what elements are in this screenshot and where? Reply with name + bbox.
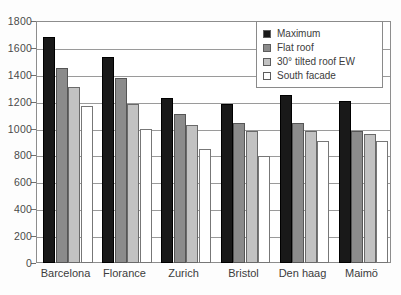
bar-group xyxy=(43,21,93,263)
bar[interactable] xyxy=(351,131,363,263)
bar[interactable] xyxy=(199,149,211,263)
legend-label: Maximum xyxy=(277,28,320,39)
chart-legend: MaximumFlat roof30° tilted roof EWSouth … xyxy=(256,21,383,88)
y-tick-label: 0 xyxy=(0,258,32,268)
legend-swatch-icon xyxy=(263,44,271,52)
y-tick-label: 200 xyxy=(0,231,32,241)
bar[interactable] xyxy=(43,37,55,263)
bar[interactable] xyxy=(140,129,152,263)
legend-label: Flat roof xyxy=(277,42,314,53)
bar[interactable] xyxy=(246,131,258,263)
y-tick-label: 600 xyxy=(0,177,32,187)
legend-item[interactable]: South facade xyxy=(263,69,377,82)
bar[interactable] xyxy=(174,114,186,263)
legend-swatch-icon xyxy=(263,72,271,80)
x-tick-label-maimö: Maimö xyxy=(332,267,391,280)
x-tick-label-barcelona: Barcelona xyxy=(36,267,95,280)
legend-label: South facade xyxy=(277,70,336,81)
bar[interactable] xyxy=(233,123,245,263)
y-tick-label: 1600 xyxy=(0,43,32,53)
bar[interactable] xyxy=(258,156,270,263)
bar[interactable] xyxy=(364,134,376,263)
y-tick-label: 1200 xyxy=(0,97,32,107)
x-tick-label-florance: Florance xyxy=(95,267,154,280)
legend-label: 30° tilted roof EW xyxy=(277,56,355,67)
bar[interactable] xyxy=(339,101,351,263)
bar[interactable] xyxy=(127,104,139,263)
y-tick-label: 800 xyxy=(0,150,32,160)
x-tick-label-zurich: Zurich xyxy=(154,267,213,280)
bar[interactable] xyxy=(317,141,329,263)
bar[interactable] xyxy=(102,57,114,263)
legend-item[interactable]: 30° tilted roof EW xyxy=(263,55,377,68)
legend-item[interactable]: Flat roof xyxy=(263,41,377,54)
bar[interactable] xyxy=(292,123,304,263)
bar[interactable] xyxy=(161,98,173,263)
x-tick-label-den-haag: Den haag xyxy=(273,267,332,280)
bar[interactable] xyxy=(280,95,292,263)
bar-group xyxy=(102,21,152,263)
bar-group xyxy=(161,21,211,263)
x-tick-label-bristol: Bristol xyxy=(214,267,273,280)
y-tick-label: 1000 xyxy=(0,124,32,134)
bar-chart: 020040060080010001200140016001800 Barcel… xyxy=(0,0,401,295)
legend-item[interactable]: Maximum xyxy=(263,27,377,40)
legend-swatch-icon xyxy=(263,30,271,38)
bar[interactable] xyxy=(81,106,93,263)
bar[interactable] xyxy=(56,68,68,263)
y-tick-label: 1800 xyxy=(0,16,32,26)
y-tick-label: 1400 xyxy=(0,70,32,80)
bar[interactable] xyxy=(221,104,233,263)
legend-swatch-icon xyxy=(263,58,271,66)
bar[interactable] xyxy=(68,87,80,263)
bar[interactable] xyxy=(186,125,198,263)
y-tick-label: 400 xyxy=(0,204,32,214)
bar[interactable] xyxy=(305,131,317,263)
bar[interactable] xyxy=(376,141,388,263)
bar[interactable] xyxy=(115,78,127,263)
